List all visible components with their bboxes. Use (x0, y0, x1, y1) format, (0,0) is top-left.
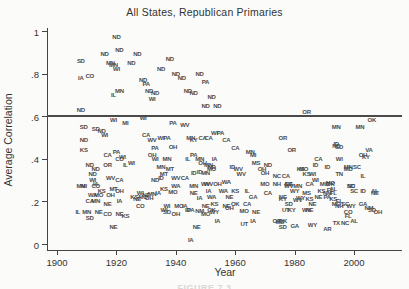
data-point-label: OR (279, 135, 287, 141)
data-point-label: NH (273, 181, 281, 187)
data-point-label: SD (285, 201, 293, 207)
data-point-label: WI (113, 66, 120, 72)
data-point-label: IA (197, 195, 202, 201)
data-point-label: WA (222, 179, 231, 185)
data-point-label: MN (332, 124, 341, 130)
data-point-label: ND (178, 75, 186, 81)
data-point-label: OR (287, 147, 295, 153)
data-point-label: KY (288, 207, 296, 213)
data-point-label: MN (157, 164, 166, 170)
data-point-label: MN (189, 183, 198, 189)
x-axis-label: Year (47, 266, 403, 278)
data-point-label: ND (100, 51, 108, 57)
data-point-label: ND (166, 56, 174, 62)
data-point-label: CA (222, 137, 230, 143)
data-point-label: OH (145, 195, 153, 201)
data-point-label: ND (213, 103, 221, 109)
x-tick-mark (235, 250, 236, 255)
y-tick-label: .8 (13, 69, 39, 80)
y-tick-label: 1 (13, 26, 39, 37)
data-point-label: PA (163, 135, 170, 141)
data-point-label: NE (193, 224, 201, 230)
data-point-label: WV (106, 175, 115, 181)
data-point-label: WY (290, 188, 299, 194)
data-point-label: WI (336, 156, 343, 162)
data-point-label: KS (231, 188, 239, 194)
y-tick-label: .4 (13, 154, 39, 165)
data-point-label: ND (80, 137, 88, 143)
y-tick-mark (42, 116, 47, 117)
y-axis-line (47, 28, 48, 250)
data-point-label: IA (188, 237, 193, 243)
data-point-label: OH (106, 192, 114, 198)
y-tick-label: 0 (13, 239, 39, 250)
x-axis-line (47, 250, 402, 251)
data-point-label: PA (187, 207, 194, 213)
data-point-label: IL (245, 188, 250, 194)
data-point-label: CA (264, 190, 272, 196)
data-point-label: OH (169, 144, 177, 150)
data-point-label: NE (309, 201, 317, 207)
data-point-label: MI (81, 183, 87, 189)
data-point-label: WI (140, 115, 147, 121)
data-point-label: WY (346, 203, 355, 209)
data-point-label: MD (344, 166, 353, 172)
data-point-label: PA (169, 120, 176, 126)
data-point-label: AL (350, 218, 357, 224)
data-point-label: NE (225, 194, 233, 200)
data-point-label: CA (115, 177, 123, 183)
data-point-label: WI (152, 156, 159, 162)
data-point-label: IA (250, 218, 255, 224)
data-point-label: ND (151, 90, 159, 96)
data-point-label: MO (240, 208, 249, 214)
data-point-label: IA (215, 218, 220, 224)
data-point-label: MN (115, 88, 124, 94)
data-point-label: WY (210, 209, 219, 215)
data-point-label: ID (191, 170, 196, 176)
data-point-label: MN (201, 170, 210, 176)
data-point-label: NE (371, 190, 379, 196)
data-point-label: MO (94, 192, 103, 198)
x-tick-mark (116, 250, 117, 255)
data-point-label: ID (313, 162, 318, 168)
data-point-label: MO (260, 181, 269, 187)
data-point-label: SC (353, 164, 361, 170)
data-point-label: NE (314, 194, 322, 200)
data-point-label: MI (250, 152, 256, 158)
data-point-label: CA (243, 201, 251, 207)
data-point-label: KS (121, 213, 129, 219)
data-point-label: UT (240, 221, 247, 227)
data-point-label: ND (207, 94, 215, 100)
data-point-label: WV (147, 137, 156, 143)
data-point-label: CA (314, 156, 322, 162)
data-point-label: CA (181, 175, 189, 181)
data-point-label: CO (85, 73, 93, 79)
data-point-label: OH (261, 170, 269, 176)
data-point-label: ID (325, 164, 330, 170)
data-point-label: MN (91, 198, 100, 204)
data-point-label: ND (89, 171, 97, 177)
y-tick-mark (42, 74, 47, 75)
data-point-label: IA (212, 156, 217, 162)
y-tick-label: .2 (13, 196, 39, 207)
data-point-label: NE (133, 196, 141, 202)
data-point-label: ND (157, 66, 165, 72)
data-point-label: WV (204, 181, 213, 187)
data-point-label: KS (211, 201, 219, 207)
data-point-label: CA (103, 152, 111, 158)
data-point-label: WI (101, 132, 108, 138)
data-point-label: SD (77, 58, 85, 64)
data-point-label: NC (341, 220, 349, 226)
data-point-label: MS (252, 160, 260, 166)
data-point-label: MI (122, 120, 128, 126)
data-point-label: SD (80, 124, 88, 130)
data-point-label: MO (168, 189, 177, 195)
data-point-label: SD (279, 224, 287, 230)
data-point-label: PA (202, 79, 209, 85)
data-point-label: ID (360, 188, 365, 194)
y-tick-mark (42, 31, 47, 32)
data-point-label: GA (290, 223, 298, 229)
data-point-label: WY (296, 195, 305, 201)
data-point-label: CO (136, 203, 144, 209)
data-point-label: NC (273, 173, 281, 179)
